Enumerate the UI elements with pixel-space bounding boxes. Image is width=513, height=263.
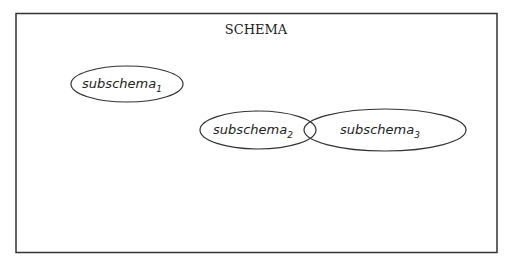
subschema-2-node: subschema2 xyxy=(200,111,316,149)
subschema-2-subscript: 2 xyxy=(287,130,293,140)
svg-text:subschema3: subschema3 xyxy=(340,122,420,140)
subschema-1-label: subschema xyxy=(82,76,156,91)
subschema-1-node: subschema1 xyxy=(71,66,183,102)
subschema-3-label: subschema xyxy=(340,122,414,137)
svg-text:subschema1: subschema1 xyxy=(82,76,162,94)
subschema-3-node: subschema3 xyxy=(304,109,466,151)
schema-title: SCHEMA xyxy=(225,22,288,37)
subschema-3-subscript: 3 xyxy=(414,130,420,140)
schema-diagram: SCHEMA subschema1 subschema2 subschema3 xyxy=(0,0,513,263)
subschema-1-subscript: 1 xyxy=(156,84,162,94)
svg-text:subschema2: subschema2 xyxy=(213,122,293,140)
subschema-2-label: subschema xyxy=(213,122,287,137)
